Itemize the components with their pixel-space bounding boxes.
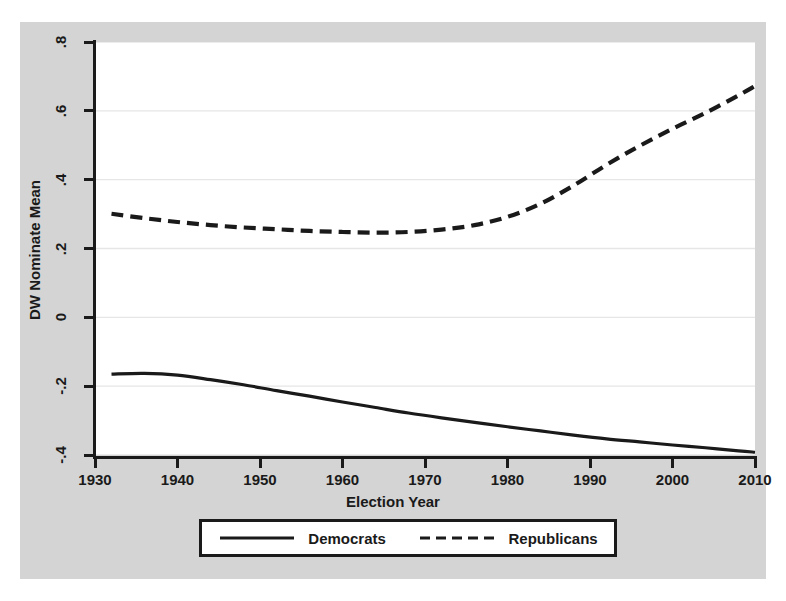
legend-label-republicans: Republicans <box>508 530 597 547</box>
plot-wrapper: .8.6.4.20-.2-.4 193019401950196019701980… <box>20 22 766 579</box>
x-tick-mark <box>176 459 179 468</box>
x-tick-mark <box>341 459 344 468</box>
figure-canvas: .8.6.4.20-.2-.4 193019401950196019701980… <box>20 22 766 579</box>
series-line-republicans <box>112 86 756 233</box>
x-tick-label: 1980 <box>491 471 524 488</box>
legend-entry-democrats: Democrats <box>218 530 386 547</box>
legend-label-democrats: Democrats <box>308 530 386 547</box>
legend-entry-republicans: Republicans <box>418 530 597 547</box>
x-tick-mark <box>671 459 674 468</box>
y-tick-mark <box>84 41 93 44</box>
data-series-layer <box>95 42 755 455</box>
x-tick-label: 1970 <box>408 471 441 488</box>
x-tick-mark <box>259 459 262 468</box>
x-tick-label: 2010 <box>738 471 771 488</box>
x-tick-label: 1990 <box>573 471 606 488</box>
series-line-democrats <box>112 373 756 452</box>
legend-key-dashed-line <box>418 532 496 544</box>
y-tick-mark <box>84 247 93 250</box>
y-axis-title: DW Nominate Mean <box>26 180 43 320</box>
x-tick-mark <box>589 459 592 468</box>
y-tick-mark <box>84 454 93 457</box>
x-tick-label: 1940 <box>161 471 194 488</box>
x-tick-mark <box>754 459 757 468</box>
x-tick-label: 1950 <box>243 471 276 488</box>
legend-box: Democrats Republicans <box>199 519 617 557</box>
y-tick-mark <box>84 385 93 388</box>
x-tick-mark <box>94 459 97 468</box>
y-tick-mark <box>84 316 93 319</box>
plot-area <box>95 42 755 455</box>
y-axis-line <box>93 40 96 459</box>
x-tick-mark <box>506 459 509 468</box>
y-tick-mark <box>84 178 93 181</box>
x-tick-label: 1930 <box>78 471 111 488</box>
x-tick-label: 1960 <box>326 471 359 488</box>
x-tick-mark <box>424 459 427 468</box>
x-tick-label: 2000 <box>656 471 689 488</box>
y-tick-mark <box>84 109 93 112</box>
x-axis-title: Election Year <box>20 493 766 510</box>
legend-key-solid-line <box>218 532 296 544</box>
